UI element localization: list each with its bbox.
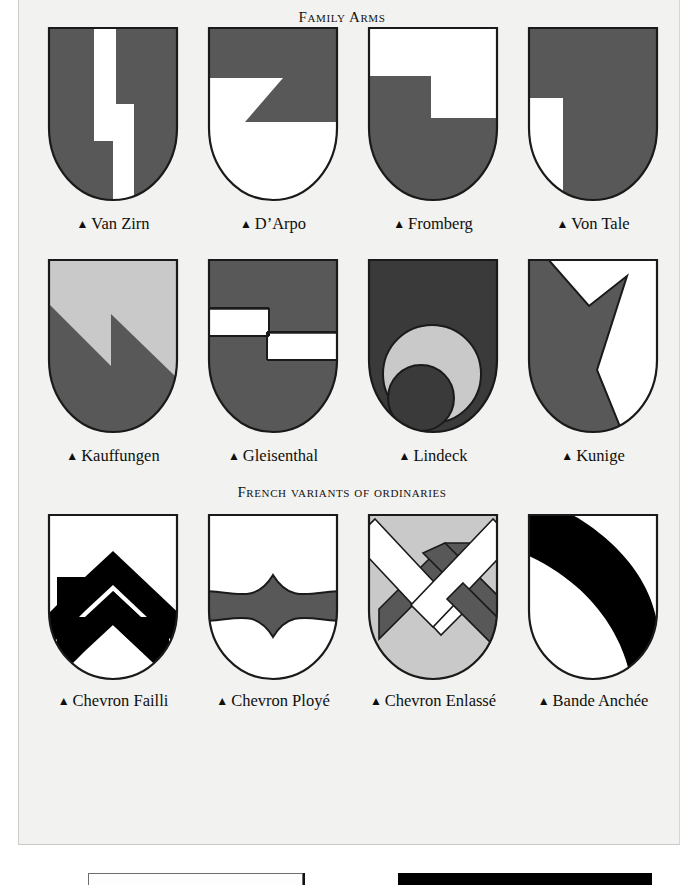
section-title-family-arms: Family Arms	[19, 9, 679, 26]
shield-cell-fromberg[interactable]	[353, 26, 513, 202]
caption-row-3: ▲Chevron Failli ▲Chevron Ployé ▲Chevron …	[19, 691, 679, 711]
shield-chevron-enlasse	[363, 513, 503, 679]
shield-cell-von-tale[interactable]	[513, 26, 673, 202]
caption-chevron-failli: ▲Chevron Failli	[58, 691, 169, 711]
caption-kunige: ▲Kunige	[561, 446, 624, 466]
shield-cell-chevron-failli[interactable]	[33, 513, 193, 679]
triangle-bullet-icon: ▲	[228, 449, 240, 463]
caption-bande-anchee: ▲Bande Anchée	[538, 691, 649, 711]
triangle-bullet-icon: ▲	[58, 694, 70, 708]
triangle-bullet-icon: ▲	[538, 694, 550, 708]
left-panel-edge	[88, 873, 303, 885]
shield-lindeck	[363, 258, 503, 434]
shield-cell-van-zirn[interactable]	[33, 26, 193, 202]
caption-fromberg: ▲Fromberg	[393, 214, 473, 234]
caption-chevron-ploye: ▲Chevron Ployé	[216, 691, 329, 711]
caption-row-1: ▲Van Zirn ▲D’Arpo ▲Fromberg ▲Von Tale	[19, 214, 679, 234]
caption-von-tale: ▲Von Tale	[556, 214, 629, 234]
shield-cell-chevron-enlasse[interactable]	[353, 513, 513, 679]
triangle-bullet-icon: ▲	[556, 217, 568, 231]
shield-von-tale	[523, 26, 663, 202]
triangle-bullet-icon: ▲	[399, 449, 411, 463]
shield-gleisenthal	[203, 258, 343, 434]
caption-row-2: ▲Kauffungen ▲Gleisenthal ▲Lindeck ▲Kunig…	[19, 446, 679, 466]
triangle-bullet-icon: ▲	[216, 694, 228, 708]
shield-kunige	[523, 258, 663, 434]
shield-cell-kunige[interactable]	[513, 258, 673, 434]
shield-cell-lindeck[interactable]	[353, 258, 513, 434]
shield-chevron-failli	[43, 513, 183, 679]
section-title-french-variants: French variants of ordinaries	[19, 484, 679, 501]
shield-bande-anchee	[523, 513, 663, 679]
shield-van-zirn	[43, 26, 183, 202]
triangle-bullet-icon: ▲	[370, 694, 382, 708]
shield-chevron-ploye	[203, 513, 343, 679]
shield-row-2	[19, 258, 679, 434]
reference-page: Family Arms	[18, 0, 680, 845]
shield-kauffungen	[43, 258, 183, 434]
right-panel-edge	[398, 873, 652, 885]
caption-darpo: ▲D’Arpo	[240, 214, 306, 234]
shield-cell-darpo[interactable]	[193, 26, 353, 202]
triangle-bullet-icon: ▲	[66, 449, 78, 463]
shield-cell-chevron-ploye[interactable]	[193, 513, 353, 679]
shield-darpo	[203, 26, 343, 202]
next-page-strip	[0, 845, 680, 883]
shield-cell-gleisenthal[interactable]	[193, 258, 353, 434]
triangle-bullet-icon: ▲	[393, 217, 405, 231]
caption-lindeck: ▲Lindeck	[399, 446, 468, 466]
triangle-bullet-icon: ▲	[240, 217, 252, 231]
shield-cell-kauffungen[interactable]	[33, 258, 193, 434]
caption-kauffungen: ▲Kauffungen	[66, 446, 159, 466]
shield-cell-bande-anchee[interactable]	[513, 513, 673, 679]
caption-van-zirn: ▲Van Zirn	[76, 214, 149, 234]
triangle-bullet-icon: ▲	[561, 449, 573, 463]
shield-row-3	[19, 513, 679, 679]
shield-fromberg	[363, 26, 503, 202]
shield-row-1	[19, 26, 679, 202]
caption-chevron-enlasse: ▲Chevron Enlassé	[370, 691, 496, 711]
caption-gleisenthal: ▲Gleisenthal	[228, 446, 318, 466]
triangle-bullet-icon: ▲	[76, 217, 88, 231]
